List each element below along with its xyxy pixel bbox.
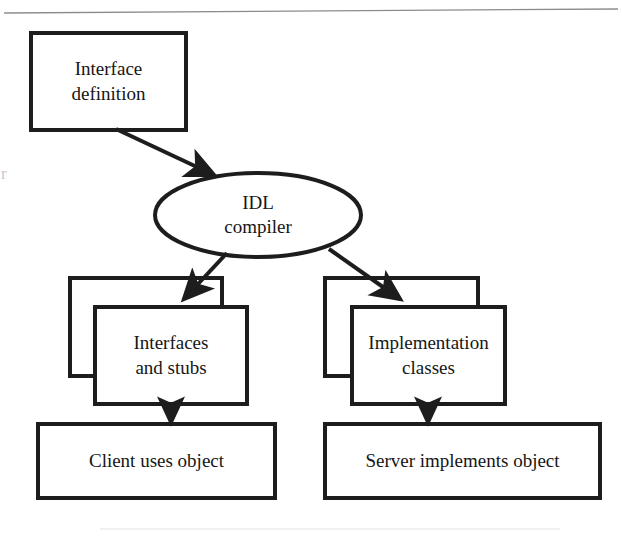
node-implementation-classes [352, 307, 505, 404]
node-idl-compiler [155, 173, 361, 257]
page-top-rule [4, 9, 618, 13]
edge-definition-to-compiler [116, 129, 214, 175]
node-interface-definition [31, 33, 186, 130]
diagram-canvas [0, 0, 622, 538]
node-interfaces-and-stubs [95, 307, 247, 404]
node-client [38, 424, 275, 498]
node-server [325, 424, 600, 498]
diagram-page: Interface definition IDL compiler Interf… [0, 0, 622, 538]
page-gutter-mark: r [1, 162, 10, 186]
